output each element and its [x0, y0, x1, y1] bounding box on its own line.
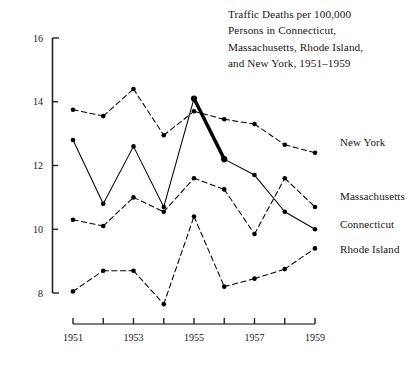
x-tick-label: 1955	[184, 332, 204, 343]
chart-title: Traffic Deaths per 100,000 Persons in Co…	[228, 6, 420, 72]
data-point-massachusetts	[252, 232, 257, 237]
data-point-rhode-island	[101, 268, 106, 273]
series-segment-new-york	[194, 111, 224, 119]
x-tick-label: 1959	[305, 332, 325, 343]
series-segment-rhode-island	[255, 269, 285, 279]
data-point-new-york	[222, 117, 227, 122]
series-segment-new-york	[73, 110, 103, 116]
data-point-massachusetts	[313, 205, 318, 210]
chart-title-line-4: and New York, 1951–1959	[228, 55, 420, 71]
data-point-connecticut	[71, 138, 76, 143]
y-axis: 161412108	[33, 33, 59, 299]
data-point-rhode-island	[71, 289, 76, 294]
series-label-connecticut: Connecticut	[340, 218, 394, 230]
series-segment-massachusetts	[73, 220, 103, 226]
data-point-rhode-island	[313, 246, 318, 251]
series-segment-massachusetts	[134, 197, 164, 211]
chart-title-line-1: Traffic Deaths per 100,000	[228, 6, 420, 22]
chart-title-line-3: Massachusetts, Rhode Island,	[228, 39, 420, 55]
data-point-new-york	[282, 142, 287, 147]
series-segment-rhode-island	[73, 271, 103, 292]
data-point-new-york	[131, 87, 136, 92]
series-segment-connecticut	[103, 146, 133, 203]
data-point-massachusetts	[222, 187, 227, 192]
x-axis: 19511953195519571959	[63, 318, 325, 343]
series-segment-massachusetts	[164, 178, 194, 211]
series-segment-new-york	[255, 124, 285, 145]
y-tick-label: 12	[33, 160, 43, 171]
data-point-connecticut	[252, 173, 257, 178]
data-point-connecticut	[313, 227, 318, 232]
data-point-new-york	[313, 150, 318, 155]
series-segment-rhode-island	[134, 271, 164, 304]
series-label-massachusetts: Massachusetts	[340, 190, 405, 202]
data-point-rhode-island	[252, 276, 257, 281]
series-rhode-island	[71, 214, 318, 306]
y-tick-label: 14	[33, 96, 43, 107]
data-point-connecticut	[131, 144, 136, 149]
x-tick-label: 1951	[63, 332, 83, 343]
data-point-new-york	[71, 107, 76, 112]
series-segment-rhode-island	[285, 248, 315, 269]
data-point-connecticut	[101, 201, 106, 206]
series-segment-new-york	[285, 145, 315, 153]
data-point-new-york	[101, 114, 106, 119]
data-point-massachusetts	[101, 224, 106, 229]
series-segment-rhode-island	[164, 217, 194, 305]
series-connecticut	[71, 95, 318, 231]
series-label-rhode-island: Rhode Island	[340, 243, 400, 255]
chart-title-line-2: Persons in Connecticut,	[228, 22, 420, 38]
series-segment-new-york	[134, 89, 164, 135]
series-segment-new-york	[224, 119, 254, 124]
data-point-connecticut	[221, 156, 227, 162]
y-tick-label: 10	[33, 224, 43, 235]
series-segment-new-york	[103, 89, 133, 116]
y-tick-label: 8	[38, 288, 43, 299]
series-segment-massachusetts	[224, 189, 254, 234]
x-tick-label: 1953	[124, 332, 144, 343]
series-segment-connecticut	[164, 99, 194, 207]
x-tick-label: 1957	[245, 332, 265, 343]
data-point-new-york	[192, 109, 197, 114]
data-point-massachusetts	[161, 209, 166, 214]
series-segment-connecticut	[255, 175, 285, 212]
data-point-new-york	[161, 133, 166, 138]
data-point-connecticut	[161, 205, 166, 210]
traffic-deaths-chart-figure: Traffic Deaths per 100,000 Persons in Co…	[0, 0, 420, 370]
series-segment-connecticut	[224, 159, 254, 175]
series-label-new-york: New York	[340, 136, 385, 148]
data-point-new-york	[252, 122, 257, 127]
data-point-rhode-island	[131, 268, 136, 273]
series-segment-rhode-island	[224, 279, 254, 287]
series-segment-massachusetts	[285, 178, 315, 207]
y-tick-label: 16	[33, 33, 43, 44]
series-segment-connecticut	[285, 212, 315, 230]
series-segment-massachusetts	[194, 178, 224, 189]
series-segment-rhode-island	[194, 217, 224, 287]
data-point-massachusetts	[282, 176, 287, 181]
data-point-rhode-island	[161, 302, 166, 307]
data-point-rhode-island	[282, 267, 287, 272]
data-point-rhode-island	[192, 214, 197, 219]
series-segment-massachusetts	[103, 197, 133, 226]
data-point-rhode-island	[222, 284, 227, 289]
data-point-massachusetts	[131, 195, 136, 200]
series-lines	[71, 87, 318, 307]
data-point-connecticut	[282, 209, 287, 214]
data-point-massachusetts	[71, 217, 76, 222]
series-segment-connecticut	[73, 140, 103, 204]
data-point-massachusetts	[192, 176, 197, 181]
data-point-connecticut	[191, 95, 197, 101]
series-segment-connecticut	[134, 146, 164, 207]
series-segment-connecticut	[194, 99, 224, 160]
